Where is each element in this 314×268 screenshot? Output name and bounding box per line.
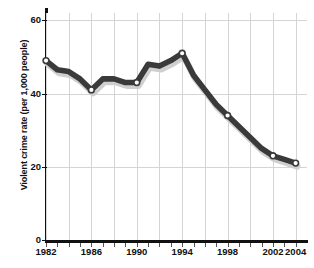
x-axis-tick-label: 1986 bbox=[71, 246, 111, 257]
y-axis-tick-label: 0 bbox=[17, 234, 41, 245]
x-axis-tick-mark bbox=[80, 243, 81, 247]
x-axis-tick-mark bbox=[284, 243, 285, 247]
data-point-marker bbox=[88, 87, 94, 93]
x-axis-line bbox=[45, 240, 308, 243]
x-axis-tick-mark bbox=[262, 243, 263, 247]
data-point-marker bbox=[270, 153, 276, 159]
data-point-marker bbox=[43, 58, 49, 64]
x-axis-tick-mark bbox=[103, 243, 104, 247]
series-line bbox=[46, 53, 296, 163]
x-axis-tick-label: 2004 bbox=[276, 246, 314, 257]
x-axis-tick-label: 1994 bbox=[162, 246, 202, 257]
x-axis-tick-mark bbox=[69, 243, 70, 247]
x-axis-tick-mark bbox=[250, 243, 251, 247]
y-axis-tick-mark bbox=[42, 167, 47, 168]
violent-crime-rate-line-chart: Violent crime rate (per 1,000 people) 02… bbox=[0, 0, 314, 268]
x-axis-tick-mark bbox=[194, 243, 195, 247]
y-axis-tick-mark bbox=[42, 240, 47, 241]
y-axis-tick-label: 40 bbox=[17, 88, 41, 99]
x-axis-tick-mark bbox=[216, 243, 217, 247]
x-axis-tick-mark bbox=[57, 243, 58, 247]
x-axis-tick-mark bbox=[148, 243, 149, 247]
x-axis-tick-mark bbox=[159, 243, 160, 247]
y-axis-tick-mark bbox=[42, 94, 47, 95]
x-axis-tick-mark bbox=[296, 243, 297, 247]
data-point-marker bbox=[293, 160, 299, 166]
x-axis-tick-mark bbox=[46, 243, 47, 247]
data-point-marker bbox=[225, 113, 231, 119]
data-point-marker bbox=[134, 80, 140, 86]
x-axis-tick-mark bbox=[171, 243, 172, 247]
y-axis-tick-label: 20 bbox=[17, 161, 41, 172]
y-axis-tick-mark bbox=[42, 20, 47, 21]
series-violent-crime-rate bbox=[46, 13, 307, 240]
x-axis-tick-label: 1990 bbox=[117, 246, 157, 257]
data-point-marker bbox=[179, 50, 185, 56]
y-axis-tick-label: 60 bbox=[17, 14, 41, 25]
x-axis-tick-mark bbox=[239, 243, 240, 247]
x-axis-tick-mark bbox=[91, 243, 92, 247]
x-axis-tick-mark bbox=[228, 243, 229, 247]
x-axis-tick-mark bbox=[137, 243, 138, 247]
x-axis-tick-mark bbox=[125, 243, 126, 247]
x-axis-tick-mark bbox=[273, 243, 274, 247]
x-axis-tick-mark bbox=[182, 243, 183, 247]
x-axis-tick-mark bbox=[205, 243, 206, 247]
x-axis-tick-label: 1982 bbox=[26, 246, 66, 257]
x-axis-tick-label: 1998 bbox=[208, 246, 248, 257]
plot-area bbox=[46, 13, 307, 240]
x-axis-tick-mark bbox=[114, 243, 115, 247]
y-axis-title: Violent crime rate (per 1,000 people) bbox=[19, 15, 29, 215]
